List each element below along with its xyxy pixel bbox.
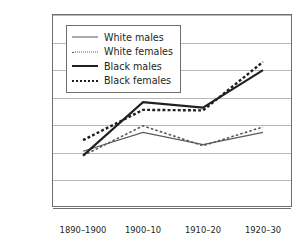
x-tick-label: 1920–30 <box>245 225 281 235</box>
legend-label-white-males: White males <box>104 32 164 43</box>
legend-item-white-females: White females <box>72 45 173 60</box>
legend-item-white-males: White males <box>72 30 173 45</box>
x-tick-label: 1890–1900 <box>60 225 107 235</box>
chart-figure: Rate per 1,000 0501001502002503003501890… <box>0 0 299 245</box>
legend-item-black-females: Black females <box>72 74 173 89</box>
legend-swatch-black-females <box>72 76 98 86</box>
legend-label-white-females: White females <box>104 46 173 57</box>
x-tick-label: 1910–20 <box>185 225 221 235</box>
legend-swatch-black-males <box>72 61 98 71</box>
gridline <box>53 208 291 209</box>
legend-label-black-males: Black males <box>104 61 162 72</box>
x-tick-label: 1900–10 <box>125 225 161 235</box>
legend-item-black-males: Black males <box>72 59 173 74</box>
legend: White males White females Black males Bl… <box>66 25 181 93</box>
legend-swatch-white-females <box>72 47 98 57</box>
legend-swatch-white-males <box>72 32 98 42</box>
legend-label-black-females: Black females <box>104 75 171 86</box>
